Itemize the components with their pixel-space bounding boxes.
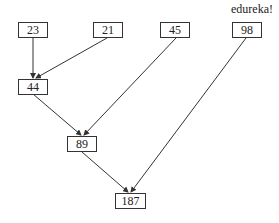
node-98: 98 [232,22,262,38]
edge-89-to-187 [82,152,128,192]
node-45: 45 [160,22,190,38]
edge-98-to-187 [131,38,246,192]
edge-21-to-44 [36,38,107,78]
node-187: 187 [115,193,146,209]
node-89: 89 [67,136,97,152]
node-21: 21 [93,22,123,38]
edge-44-to-89 [33,94,81,135]
watermark-label: edureka! [231,3,273,15]
diagram-canvas: edureka! 23 21 45 98 44 89 187 [0,0,279,223]
node-44: 44 [18,79,48,95]
edge-45-to-89 [84,38,176,135]
node-23: 23 [18,22,48,38]
